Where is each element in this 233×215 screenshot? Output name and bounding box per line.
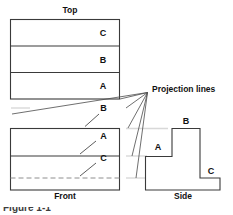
figure-caption-clip: Figure 1-1 [0, 207, 233, 215]
orthographic-projection-diagram: Top C B A Projection lines [0, 0, 233, 215]
figure-caption: Figure 1-1 [3, 207, 51, 213]
top-band-label-b: B [100, 55, 107, 65]
top-view-group: Top C B A [11, 5, 120, 99]
side-step-label-c: C [208, 166, 215, 176]
front-label-b: B [100, 103, 107, 113]
figure-root: Top C B A Projection lines [0, 0, 233, 215]
top-band-label-c: C [100, 28, 107, 38]
front-view-label: Front [54, 191, 76, 201]
side-view-label: Side [174, 191, 192, 201]
top-band-label-a: A [100, 81, 107, 91]
front-label-a: A [100, 131, 107, 141]
side-step-label-b: B [183, 116, 190, 126]
projection-lines-label: Projection lines [152, 84, 216, 94]
projection-line-4 [128, 93, 148, 129]
side-step-label-a: A [155, 142, 162, 152]
front-leader-b [85, 114, 99, 127]
top-view-label: Top [63, 5, 78, 15]
side-view-outline [146, 129, 221, 191]
front-view-group: B A C Front [11, 103, 120, 201]
front-label-c: C [100, 153, 107, 163]
